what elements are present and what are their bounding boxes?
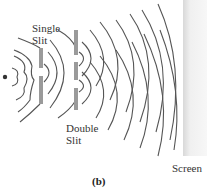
double-slit-diagram: Single Slit Double Slit Screen (b) [0,0,207,188]
double-slit-barrier [74,30,78,110]
single-slit-label-line2: Slit [32,34,60,46]
point-source [3,75,7,79]
single-slit-barrier [39,48,43,104]
double-slit-label-line1: Double [66,122,98,134]
double-slit-label: Double Slit [66,122,98,146]
screen-label: Screen [172,162,202,174]
single-slit-label-line1: Single [32,22,60,34]
single-slit-label: Single Slit [32,22,60,46]
double-slit-label-line2: Slit [66,134,98,146]
incident-waves [12,38,40,122]
screen [183,0,207,156]
figure-caption: (b) [92,175,105,187]
